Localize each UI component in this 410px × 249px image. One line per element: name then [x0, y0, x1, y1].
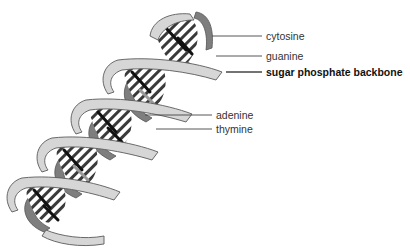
label-thymine: thymine [216, 123, 253, 135]
label-cytosine: cytosine [266, 30, 305, 42]
label-sugar-phosphate-backbone: sugar phosphate backbone [266, 66, 403, 78]
dna-helix-diagram [0, 0, 410, 249]
label-adenine: adenine [216, 109, 253, 121]
label-guanine: guanine [266, 50, 303, 62]
